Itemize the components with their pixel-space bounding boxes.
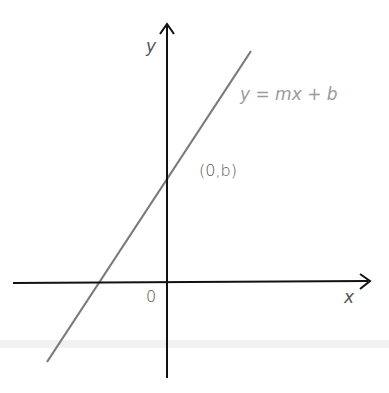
line-y-mx-b bbox=[47, 51, 251, 362]
x-axis-label: x bbox=[344, 287, 354, 307]
line-equation-label: y = mx + b bbox=[240, 84, 338, 104]
y-axis-label: y bbox=[146, 36, 156, 56]
x-axis bbox=[13, 281, 368, 283]
coordinate-plane bbox=[0, 0, 389, 393]
origin-label: 0 bbox=[146, 287, 156, 306]
intercept-label: (0,b) bbox=[199, 161, 237, 180]
